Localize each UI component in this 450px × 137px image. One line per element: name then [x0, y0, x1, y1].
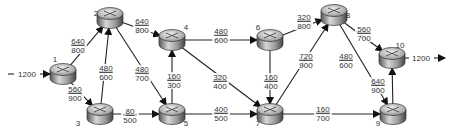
- router-icon: [380, 104, 406, 125]
- node-label: 7: [256, 119, 261, 128]
- edge-3-5: 80500: [113, 107, 159, 125]
- router-node-9: 9: [376, 104, 406, 129]
- router-node-10: 10: [379, 41, 405, 69]
- router-node-6: 6: [256, 23, 283, 51]
- router-icon: [50, 64, 76, 85]
- edge-capacity-label: 700: [135, 74, 149, 83]
- edge-flow-label: 80: [126, 107, 135, 116]
- edge-capacity-label: 500: [214, 114, 228, 123]
- edge-flow-label: 640: [135, 17, 149, 26]
- router-icon: [321, 5, 347, 26]
- node-label: 8: [346, 11, 351, 20]
- node-label: 10: [396, 41, 405, 50]
- edge-capacity-label: 400: [213, 82, 227, 91]
- edge-flow-label: 480: [214, 27, 228, 36]
- node-label: 1: [53, 55, 58, 64]
- router-node-4: 4: [159, 23, 189, 51]
- edge-flow-label: 640: [71, 37, 85, 46]
- edge-7-9: 160700: [283, 105, 380, 123]
- edge-flow-label: 560: [68, 85, 82, 94]
- edge-capacity-label: 500: [123, 116, 137, 125]
- edge-7-8: 720900: [276, 24, 328, 105]
- edge-1-2: 640800: [69, 26, 103, 65]
- edge-flow-label: 720: [299, 52, 313, 61]
- router-node-2: 2: [94, 8, 123, 29]
- edge-capacity-label: 300: [167, 81, 181, 90]
- node-label: 2: [94, 9, 99, 18]
- edge-9-10: 640900: [369, 68, 393, 104]
- edge-4-7: 320400: [181, 47, 260, 107]
- node-label: 4: [184, 23, 189, 32]
- node-label: 3: [76, 119, 81, 128]
- router-icon: [257, 104, 283, 125]
- edge-flow-label: 560: [357, 25, 371, 34]
- node-label: 5: [184, 119, 189, 128]
- router-node-7: 7: [256, 104, 283, 129]
- sink-outflow: 1200: [405, 54, 445, 63]
- edge-5-4: 160300: [165, 50, 183, 104]
- router-icon: [159, 104, 185, 125]
- edge-flow-label: 320: [213, 73, 227, 82]
- edge-capacity-label: 900: [371, 86, 385, 95]
- edge-6-8: 320800: [282, 13, 323, 35]
- edge-3-2: 480600: [97, 28, 115, 104]
- edge-flow-label: 160: [167, 72, 181, 81]
- router-icon: [257, 30, 283, 51]
- router-node-3: 3: [76, 104, 113, 129]
- diagram-svg: 6408005609004806006408004807008050016030…: [0, 0, 450, 137]
- source-inflow: 1200: [8, 70, 50, 79]
- edge-flow-label: 480: [339, 52, 353, 61]
- edge-flow-label: 480: [135, 65, 149, 74]
- edge-2-4: 640800: [122, 17, 160, 36]
- edge-8-10: 560700: [343, 22, 382, 51]
- router-icon: [159, 30, 185, 51]
- edge-capacity-label: 600: [339, 61, 353, 70]
- edge-capacity-label: 800: [71, 46, 85, 55]
- edge-capacity-label: 900: [68, 94, 82, 103]
- router-node-1: 1: [50, 55, 76, 85]
- router-icon: [97, 8, 123, 29]
- edges-layer: 6408005609004806006408004807008050016030…: [66, 13, 393, 125]
- edge-4-6: 480600: [185, 27, 257, 45]
- edge-6-7: 160400: [262, 50, 280, 104]
- edge-flow-label: 640: [371, 77, 385, 86]
- edge-capacity-label: 600: [99, 73, 113, 82]
- edge-flow-label: 160: [316, 105, 330, 114]
- edge-capacity-label: 900: [299, 61, 313, 70]
- router-icon: [379, 48, 405, 69]
- flow-network-diagram: 6408005609004806006408004807008050016030…: [0, 0, 450, 137]
- edge-flow-label: 400: [214, 105, 228, 114]
- edge-capacity-label: 800: [135, 26, 149, 35]
- router-icon: [87, 104, 113, 125]
- edge-flow-label: 480: [99, 64, 113, 73]
- edge-capacity-label: 400: [264, 82, 278, 91]
- edge-1-3: 560900: [66, 82, 92, 106]
- router-node-8: 8: [321, 5, 351, 26]
- sink-flow-label: 1200: [412, 54, 430, 63]
- source-flow-label: 1200: [18, 70, 36, 79]
- edge-5-7: 400500: [185, 105, 257, 123]
- node-label: 6: [256, 23, 261, 32]
- edge-capacity-label: 600: [214, 36, 228, 45]
- edge-flow-label: 160: [264, 73, 278, 82]
- edge-capacity-label: 800: [297, 22, 311, 31]
- node-label: 9: [376, 119, 381, 128]
- edge-capacity-label: 700: [316, 114, 330, 123]
- edge-arrow: [392, 68, 393, 104]
- router-node-5: 5: [159, 104, 189, 129]
- edge-capacity-label: 700: [357, 34, 371, 43]
- edge-flow-label: 320: [297, 13, 311, 22]
